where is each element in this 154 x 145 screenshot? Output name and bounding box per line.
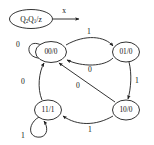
input-arrow-label: x [62,6,66,15]
state-label-01: 01/0 [119,47,132,56]
edge-s01-to-s10 [128,62,131,99]
edge-label-s10-to-s11: 1 [88,125,92,134]
edge-s00-to-s01 [66,38,113,46]
state-label-10: 10/0 [119,105,132,114]
edge-label-s00-to-s01: 1 [87,27,91,36]
edge-label-s11-self: 1 [21,131,25,140]
edge-s10-to-s11 [63,116,113,124]
edge-s11-to-s00 [39,63,44,100]
state-label-11: 11/1 [42,105,55,114]
edge-label-s11-to-s00: 0 [21,77,25,86]
legend-suffix: /z [36,14,42,23]
edge-label-s00-self: 0 [16,40,20,49]
legend-label: Q2Q1/z [20,14,42,23]
edge-label-s01-to-s00: 0 [88,65,92,74]
state-diagram-svg: Q2Q1/z x 0 1 0 1 0 1 1 0 00/0 01/0 [0,0,154,145]
state-diagram-canvas: Q2Q1/z x 0 1 0 1 0 1 1 0 00/0 01/0 [0,0,154,145]
edge-label-s01-to-s10: 1 [135,76,139,85]
edge-label-s10-to-s00: 0 [76,81,80,90]
edge-s10-to-s00 [59,63,115,102]
state-label-00: 00/0 [44,47,57,56]
